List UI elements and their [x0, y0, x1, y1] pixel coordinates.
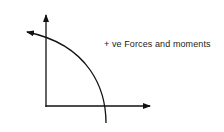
moment-arc-arrow: [27, 32, 106, 123]
sign-convention-label: + ve Forces and moments: [104, 39, 211, 49]
sign-convention-diagram: [0, 0, 224, 132]
